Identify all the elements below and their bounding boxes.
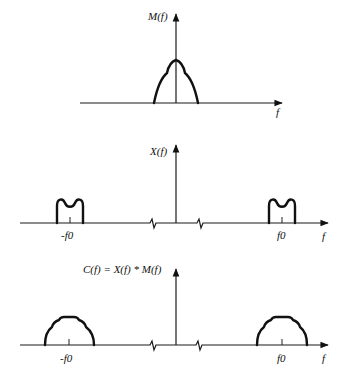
spectrum-diagram: M(f) f X(f) f -f0 f0 C(f) = X(f) * M(f) … [0, 0, 347, 375]
x-axis-label: f [322, 230, 327, 242]
tick-label-pos-f0: f0 [277, 352, 286, 364]
y-axis-label: C(f) = X(f) * M(f) [83, 263, 162, 276]
tick-label-pos-f0: f0 [277, 229, 286, 241]
y-axis-label: M(f) [147, 10, 168, 23]
x-axis-label: f [322, 352, 327, 364]
panel-carrier-spectrum: X(f) f -f0 f0 [20, 145, 328, 242]
panel-message-spectrum: M(f) f [80, 10, 282, 118]
panel-convolved-spectrum: C(f) = X(f) * M(f) f -f0 f0 [20, 263, 328, 364]
x-axis-label: f [276, 106, 281, 118]
y-axis-label: X(f) [149, 145, 167, 158]
tick-label-neg-f0: -f0 [61, 229, 74, 241]
tick-label-neg-f0: -f0 [60, 352, 73, 364]
